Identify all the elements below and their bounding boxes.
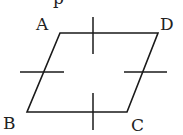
vertex-label-c: C	[131, 115, 144, 135]
cropped-text-fragment: p	[53, 0, 64, 8]
vertex-label-b: B	[3, 113, 16, 133]
parallelogram-diagram: p A D B C	[0, 0, 183, 135]
vertex-label-d: D	[160, 14, 174, 34]
vertex-label-a: A	[35, 14, 49, 34]
